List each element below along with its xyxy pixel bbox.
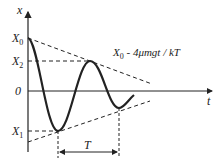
envelope-label: X0 - 4μmgt / kT (113, 46, 180, 63)
t-axis-label: t (207, 95, 210, 107)
x0-label: X0 (12, 32, 23, 49)
period-label: T (84, 139, 91, 151)
diagram-graphics (0, 0, 222, 164)
oscillation-diagram: x t 0 X0 X2 X1 X0 - 4μmgt / kT T (0, 0, 222, 164)
x2-label: X2 (12, 55, 23, 72)
x1-label: X1 (12, 125, 23, 142)
origin-label: 0 (15, 85, 21, 97)
x-axis-label: x (17, 4, 22, 16)
